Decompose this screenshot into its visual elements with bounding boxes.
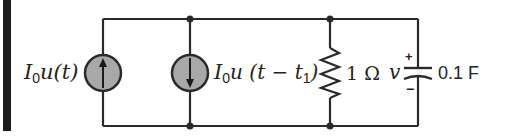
close-paren: ) [310, 60, 318, 84]
plus-sign: + [405, 50, 413, 63]
function-u-t-minus: u (t − t [230, 60, 303, 84]
left-border-bar [3, 0, 11, 131]
node-dot [327, 16, 334, 23]
node-dot [187, 16, 194, 23]
source1-label: I0u(t) [24, 62, 78, 85]
node-dot [327, 123, 334, 130]
current-source-1 [85, 55, 121, 91]
source2-label: I0u (t − t1) [214, 62, 318, 85]
capacitor-label: 0.1 F [438, 64, 479, 82]
minus-sign: − [406, 82, 414, 96]
function-u-t: u(t) [40, 60, 78, 84]
current-source-2 [172, 55, 208, 91]
capacitor-voltage-label: v [389, 62, 400, 82]
resistor-zigzag-icon [321, 48, 339, 98]
resistor-label: 1 Ω [346, 64, 380, 83]
subscript-0: 0 [222, 70, 230, 86]
subscript-0: 0 [32, 70, 40, 86]
node-dot [187, 123, 194, 130]
